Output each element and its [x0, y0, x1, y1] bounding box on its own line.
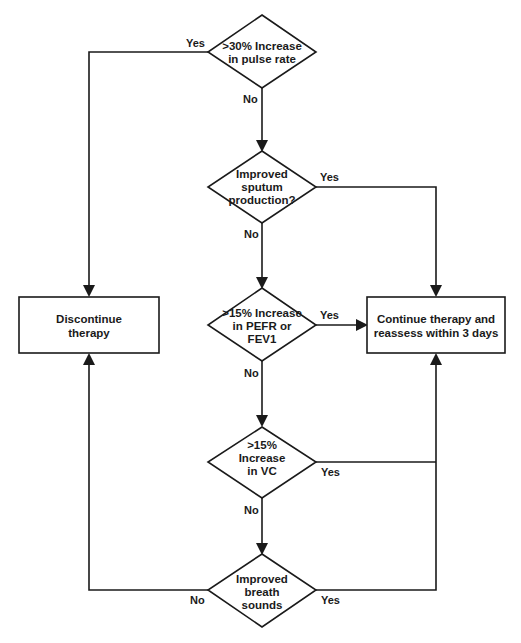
- decision-sputum-line2: sputum: [241, 181, 283, 193]
- edge-d1-yes-line: [89, 52, 208, 290]
- arrowhead-down-icon: [83, 285, 95, 297]
- decision-pefr-line1: >15% Increase: [222, 307, 302, 319]
- decision-vc-line2: Increase: [239, 452, 286, 464]
- label-d5-no: No: [190, 594, 205, 606]
- decision-breath-sounds: Improved breath sounds: [208, 554, 316, 627]
- process-discontinue-therapy: Discontinue therapy: [19, 297, 159, 353]
- label-d2-no: No: [244, 228, 259, 240]
- label-d1-yes: Yes: [186, 37, 205, 49]
- decision-vc-line3: in VC: [247, 465, 276, 477]
- process-continue-therapy: Continue therapy and reassess within 3 d…: [367, 297, 505, 353]
- arrowhead-down-icon: [256, 415, 268, 427]
- arrowhead-down-icon: [430, 285, 442, 297]
- decision-vc: >15% Increase in VC: [208, 427, 316, 498]
- decision-sputum-line1: Improved: [236, 168, 288, 180]
- label-d3-no: No: [244, 367, 259, 379]
- decision-pefr-fev1: >15% Increase in PEFR or FEV1: [208, 288, 316, 361]
- label-d4-no: No: [244, 504, 259, 516]
- edge-d2-yes-line: [316, 187, 436, 290]
- decision-breath-line3: sounds: [242, 599, 283, 611]
- continue-line1: Continue therapy and: [377, 313, 495, 325]
- flowchart-canvas: >30% Increase in pulse rate Improved spu…: [0, 0, 521, 643]
- decision-breath-line2: breath: [244, 586, 279, 598]
- decision-pefr-line2: in PEFR or: [233, 320, 292, 332]
- arrowhead-up-icon: [430, 353, 442, 365]
- decision-vc-line1: >15%: [247, 439, 277, 451]
- decision-pulse-rate: >30% Increase in pulse rate: [208, 15, 316, 88]
- discontinue-line1: Discontinue: [56, 313, 122, 325]
- arrowhead-up-icon: [83, 353, 95, 365]
- label-d5-yes: Yes: [321, 594, 340, 606]
- label-d1-no: No: [243, 93, 258, 105]
- decision-breath-line1: Improved: [236, 573, 288, 585]
- label-d3-yes: Yes: [320, 309, 339, 321]
- decision-sputum-production: Improved sputum production?: [208, 151, 316, 223]
- decision-sputum-line3: production?: [228, 194, 295, 206]
- continue-line2: reassess within 3 days: [374, 327, 499, 339]
- discontinue-line2: therapy: [68, 327, 110, 339]
- edge-d5-no-line: [89, 360, 208, 590]
- label-d2-yes: Yes: [320, 171, 339, 183]
- decision-pulse-rate-line1: >30% Increase: [222, 40, 302, 52]
- decision-pefr-line3: FEV1: [248, 333, 277, 345]
- label-d4-yes: Yes: [321, 466, 340, 478]
- decision-pulse-rate-line2: in pulse rate: [228, 53, 296, 65]
